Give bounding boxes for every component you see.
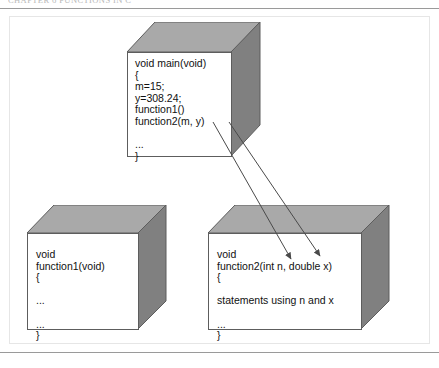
function2-box: void function2(int n, double x) { statem… <box>208 205 390 330</box>
figure-page: CHAPTER 6 FUNCTIONS IN C void main(void)… <box>0 0 439 368</box>
main-box-side-face <box>231 22 261 157</box>
main-box-code: void main(void) { m=15; y=308.24; functi… <box>135 58 206 162</box>
function2-box-code-text: void function2(int n, double x) { statem… <box>217 248 334 341</box>
main-box-code-text: void main(void) { m=15; y=308.24; functi… <box>135 57 206 162</box>
page-rule-bottom <box>0 352 439 353</box>
running-head: CHAPTER 6 FUNCTIONS IN C <box>8 0 268 4</box>
function1-box-code-text: void function1(void) { ... ... } <box>36 248 105 341</box>
main-function-box: void main(void) { m=15; y=308.24; functi… <box>127 22 261 157</box>
function2-box-side-face <box>361 205 390 330</box>
function1-box-code: void function1(void) { ... ... } <box>36 249 105 342</box>
function2-box-code: void function2(int n, double x) { statem… <box>217 249 334 342</box>
page-rule-top <box>0 8 439 9</box>
function1-box-side-face <box>138 205 167 330</box>
function1-box: void function1(void) { ... ... } <box>27 205 167 330</box>
